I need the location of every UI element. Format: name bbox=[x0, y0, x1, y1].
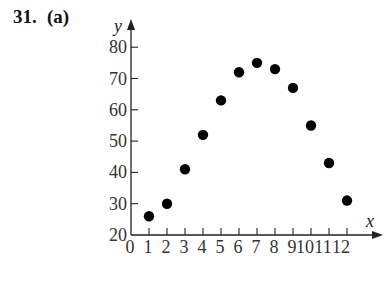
data-point bbox=[270, 64, 280, 74]
x-tick-label: 3 bbox=[180, 237, 189, 257]
data-point bbox=[144, 211, 154, 221]
y-axis-label: y bbox=[112, 16, 122, 36]
y-tick-label: 40 bbox=[109, 162, 127, 182]
x-axis-label: x bbox=[365, 211, 374, 231]
y-tick-label: 60 bbox=[109, 100, 127, 120]
data-point bbox=[342, 195, 352, 205]
data-point bbox=[306, 120, 316, 130]
x-tick-label: 11 bbox=[314, 237, 331, 257]
x-tick-label: 1 bbox=[144, 237, 153, 257]
x-tick-label: 12 bbox=[332, 237, 350, 257]
y-tick-label: 20 bbox=[109, 225, 127, 245]
y-tick-label: 80 bbox=[109, 37, 127, 57]
data-point bbox=[180, 164, 190, 174]
data-point bbox=[288, 83, 298, 93]
data-point bbox=[216, 95, 226, 105]
y-axis-arrow-icon bbox=[127, 19, 135, 30]
data-point bbox=[234, 67, 244, 77]
x-tick-label: 6 bbox=[234, 237, 243, 257]
y-tick-label: 50 bbox=[109, 131, 127, 151]
x-axis-arrow-icon bbox=[372, 231, 383, 239]
scatter-plot: xy012345678910111220304050607080 bbox=[0, 0, 389, 287]
data-point bbox=[324, 158, 334, 168]
data-point bbox=[198, 130, 208, 140]
x-tick-label: 10 bbox=[296, 237, 314, 257]
x-tick-label: 2 bbox=[162, 237, 171, 257]
x-tick-label: 4 bbox=[198, 237, 207, 257]
y-tick-label: 30 bbox=[109, 194, 127, 214]
x-tick-label: 5 bbox=[216, 237, 225, 257]
x-tick-label: 8 bbox=[270, 237, 279, 257]
y-tick-label: 70 bbox=[109, 69, 127, 89]
data-point bbox=[162, 199, 172, 209]
data-point bbox=[252, 58, 262, 68]
x-tick-label: 7 bbox=[252, 237, 261, 257]
